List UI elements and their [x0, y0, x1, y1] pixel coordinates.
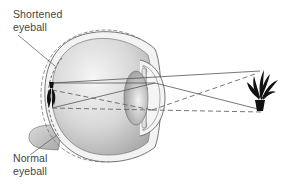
plant-pot	[255, 100, 265, 111]
shortened-eyeball-leader-line	[18, 35, 55, 66]
label-shortened-eyeball: Shortened eyeball	[13, 8, 62, 34]
label-normal-line1: Normal	[13, 152, 47, 165]
lens	[124, 71, 148, 125]
object-plant-icon	[247, 70, 278, 111]
label-normal-eyeball: Normal eyeball	[13, 152, 47, 178]
label-shortened-line2: eyeball	[13, 21, 62, 34]
diagram-canvas: Shortened eyeball Normal eyeball	[0, 0, 288, 192]
label-shortened-line1: Shortened	[13, 8, 62, 21]
dashed-ray-cross	[152, 73, 258, 110]
label-normal-line2: eyeball	[13, 165, 47, 178]
